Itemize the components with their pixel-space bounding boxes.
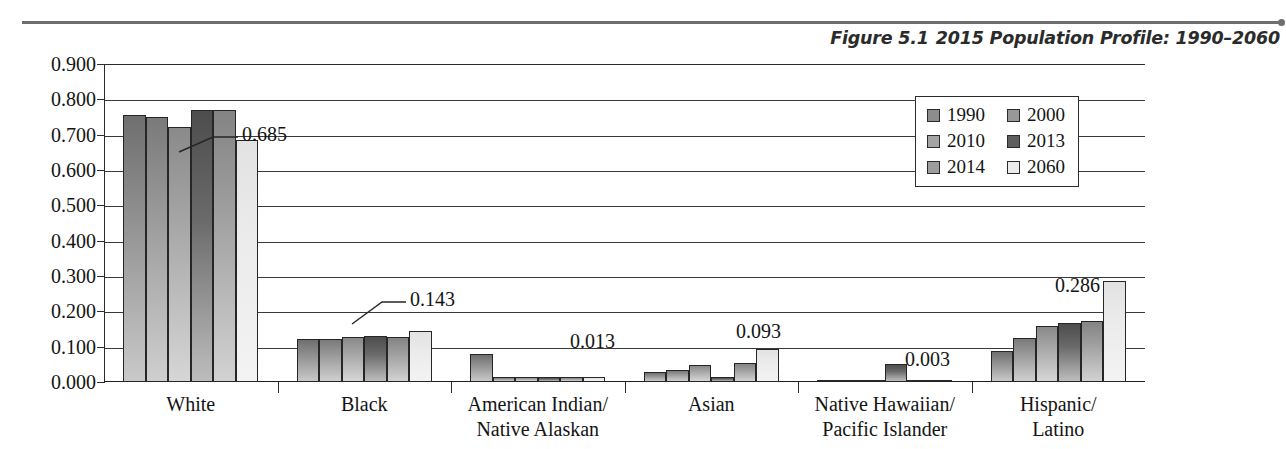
y-axis-tick-label: 0.700 [51,123,96,146]
legend-item-2013[interactable]: 2013 [1007,130,1065,152]
y-axis-tick-label: 0.200 [51,300,96,323]
x-axis-category-label: Asian [625,392,799,417]
legend-swatch-icon [1007,135,1020,148]
y-axis-tick-mark [97,382,105,383]
legend-label: 2010 [947,130,985,152]
figure-number: Figure 5.1 [830,28,929,48]
x-axis-category-label: Black [278,392,452,417]
bar-2013 [538,377,561,382]
y-axis-tick-label: 0.400 [51,229,96,252]
bar-1990 [991,351,1014,382]
y-axis-labels: 0.9000.8000.7000.6000.5000.4000.3000.200… [0,0,96,449]
bar-2060 [1103,281,1126,382]
value-callout-label: 0.013 [570,330,615,353]
chart-legend: 199020002010201320142060 [915,96,1079,187]
y-axis-tick-label: 0.000 [51,371,96,394]
bar-2013 [1058,323,1081,382]
y-axis-tick-mark [97,241,105,242]
legend-swatch-icon [927,161,940,174]
x-axis-category-label: American Indian/Native Alaskan [451,392,625,442]
legend-label: 2000 [1027,104,1065,126]
value-callout-label: 0.003 [905,348,950,371]
callout-leader-line [175,119,250,172]
y-axis-tick-label: 0.100 [51,335,96,358]
bar-2000 [146,117,169,382]
y-axis-tick-mark [97,276,105,277]
bar-2000 [840,380,863,383]
bar-2000 [666,370,689,382]
bar-2010 [689,365,712,382]
y-axis-tick-mark [97,205,105,206]
x-axis-category-label: Native Hawaiian/Pacific Islander [798,392,972,442]
category-label-line: Native Alaskan [451,417,625,442]
category-label-line: Hispanic/ [972,392,1146,417]
bar-2060 [930,380,953,383]
y-axis-tick-mark [97,170,105,171]
bar-2010 [515,377,538,382]
category-label-line: Pacific Islander [798,417,972,442]
bar-group [123,64,258,382]
legend-item-1990[interactable]: 1990 [927,104,985,126]
category-label-line: Black [278,392,452,417]
y-axis-tick-label: 0.900 [51,53,96,76]
legend-label: 2014 [947,156,985,178]
x-axis-category-label: White [104,392,278,417]
y-axis-tick-mark [97,99,105,100]
y-axis-tick-label: 0.800 [51,88,96,111]
bar-2000 [319,339,342,382]
bar-2000 [1013,338,1036,382]
y-axis-tick-mark [97,311,105,312]
y-axis-tick-mark [97,135,105,136]
legend-swatch-icon [927,109,940,122]
bar-2014 [907,380,930,383]
category-label-line: White [104,392,278,417]
y-axis-tick-mark [97,347,105,348]
y-axis-tick-label: 0.500 [51,194,96,217]
x-axis-category-label: Hispanic/Latino [972,392,1146,442]
legend-label: 2013 [1027,130,1065,152]
y-axis-tick-mark [97,64,105,65]
bar-2013 [885,364,908,382]
legend-swatch-icon [1007,109,1020,122]
bar-1990 [470,354,493,382]
category-label-line: Latino [972,417,1146,442]
category-label-line: Asian [625,392,799,417]
bar-2013 [711,377,734,382]
bar-2014 [734,363,757,382]
bar-1990 [123,115,146,382]
legend-item-2060[interactable]: 2060 [1007,156,1065,178]
legend-label: 2060 [1027,156,1065,178]
header-rule-dot [1278,19,1285,26]
value-callout-label: 0.093 [736,320,781,343]
legend-item-2014[interactable]: 2014 [927,156,985,178]
bar-2060 [236,140,259,382]
legend-swatch-icon [1007,161,1020,174]
y-axis-tick-label: 0.300 [51,265,96,288]
y-axis-tick-label: 0.600 [51,159,96,182]
legend-label: 1990 [947,104,985,126]
figure-title: Figure 5.12015 Population Profile: 1990–… [830,28,1280,48]
bar-2060 [756,349,779,382]
callout-leader-line [348,284,418,344]
bar-2010 [1036,326,1059,382]
bar-1990 [817,380,840,383]
bar-2060 [583,377,606,382]
bar-2014 [560,377,583,382]
bar-2010 [342,337,365,382]
bar-2014 [1081,321,1104,382]
bar-1990 [644,372,667,382]
legend-item-2010[interactable]: 2010 [927,130,985,152]
value-callout-label: 0.286 [1055,274,1100,297]
category-label-line: American Indian/ [451,392,625,417]
legend-swatch-icon [927,135,940,148]
bar-2010 [862,380,885,383]
legend-item-2000[interactable]: 2000 [1007,104,1065,126]
figure-title-text: 2015 Population Profile: 1990–2060 [936,28,1280,48]
header-rule [22,21,1284,24]
bar-2000 [493,377,516,382]
bar-1990 [297,339,320,382]
category-label-line: Native Hawaiian/ [798,392,972,417]
